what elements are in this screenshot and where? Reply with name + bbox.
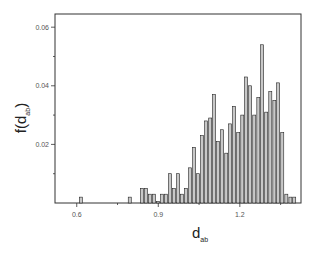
histogram-bar [229,124,232,203]
histogram-bar [193,147,196,203]
histogram-bar [161,194,164,203]
y-axis-ticks: 0.020.040.06 [35,24,55,174]
x-tick-label: 0.9 [153,211,163,218]
histogram-bar [180,194,183,203]
histogram-bar [225,153,228,203]
x-tick-label: 0.6 [72,211,82,218]
x-axis-ticks: 0.60.91.2 [72,203,281,218]
histogram-bar [177,174,180,203]
histogram-bar [261,45,264,203]
histogram-bar [148,194,151,203]
histogram-bar [185,188,188,203]
histogram-bar [209,118,212,203]
histogram-bar [201,136,204,203]
x-axis-label: dab [192,224,208,243]
histogram-bar [237,133,240,203]
histogram-bar [277,83,280,203]
histogram-bar [269,92,272,203]
histogram-bar [257,98,260,203]
histogram-bar [245,77,248,203]
y-tick-label: 0.06 [35,24,49,31]
histogram-bar [285,194,288,203]
histogram-bar [145,188,148,203]
histogram-bar [152,194,155,203]
histogram-bar [233,106,236,203]
histogram-bar [189,168,192,203]
histogram-bar [273,100,276,203]
histogram-bar [164,194,167,203]
histogram-bar [281,133,284,203]
histogram-bar [289,197,292,203]
histogram-bar [173,188,176,203]
histogram-bar [205,121,208,203]
histogram-chart: 0.60.91.2 0.020.040.06 dab f(dab) [0,0,312,253]
histogram-bar [213,95,216,203]
histogram-bar [128,197,131,203]
histogram-bar [241,115,244,203]
histogram-bar [265,112,268,203]
histogram-bar [249,86,252,203]
histogram-bar [221,130,224,203]
x-tick-label: 1.2 [235,211,245,218]
histogram-bar [293,197,296,203]
histogram-bar [140,188,143,203]
histogram-bar [168,174,171,203]
histogram-bar [157,202,160,203]
y-axis-label: f(dab) [12,103,31,133]
y-tick-label: 0.04 [35,82,49,89]
y-tick-label: 0.02 [35,141,49,148]
histogram-bar [196,174,199,203]
histogram-bar [217,141,220,203]
histogram-bar [253,115,256,203]
histogram-bars [79,45,295,203]
histogram-bar [79,197,82,203]
